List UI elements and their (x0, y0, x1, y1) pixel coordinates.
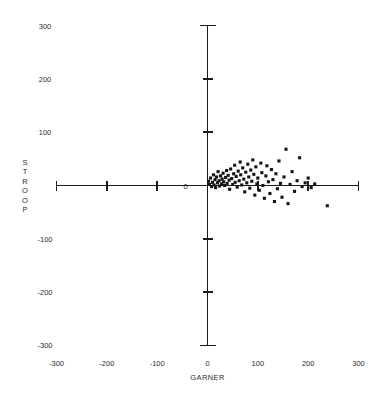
data-point-marker (254, 165, 257, 168)
data-point-marker (271, 178, 274, 181)
y-tick-label: -100 (37, 235, 52, 244)
data-point-marker (251, 158, 254, 161)
data-point-marker (209, 176, 212, 179)
y-axis-title-letter: O (22, 186, 28, 195)
data-point-marker (217, 170, 220, 173)
data-point-marker (236, 186, 239, 189)
y-axis-title-letter: S (22, 158, 27, 167)
data-point-marker (212, 183, 215, 186)
data-point-marker (293, 190, 296, 193)
data-point-marker (226, 182, 229, 185)
data-point-marker (229, 167, 232, 170)
y-axis-title-letter: O (22, 196, 28, 205)
data-point-marker (276, 187, 279, 190)
data-point-marker (280, 196, 283, 199)
data-point-marker (222, 180, 225, 183)
x-axis-title: GARNER (190, 373, 225, 382)
data-point-marker (239, 160, 242, 163)
data-point-marker (240, 183, 243, 186)
y-tick-label: -300 (37, 341, 52, 350)
data-point-marker (260, 171, 263, 174)
data-point-marker (249, 168, 252, 171)
data-point-marker (222, 172, 225, 175)
data-point-marker (267, 180, 270, 183)
data-point-marker (215, 175, 218, 178)
data-point-marker (237, 170, 240, 173)
data-point-marker (264, 174, 267, 177)
data-point-marker (270, 168, 273, 171)
data-point-marker (286, 202, 289, 205)
data-point-marker (298, 156, 301, 159)
data-point-marker (255, 182, 258, 185)
data-point-marker (243, 190, 246, 193)
data-point-marker (277, 159, 280, 162)
data-point-marker (218, 179, 221, 182)
y-tick-label: 0 (183, 182, 187, 191)
data-point-marker (301, 185, 304, 188)
data-point-marker (246, 163, 249, 166)
y-tick-label: 200 (39, 75, 52, 84)
data-point-marker (310, 186, 313, 189)
data-point-marker (282, 175, 285, 178)
data-point-marker (274, 172, 277, 175)
data-point-marker (232, 172, 235, 175)
data-point-marker (288, 183, 291, 186)
data-point-marker (207, 180, 210, 183)
data-point-marker (219, 174, 222, 177)
data-point-marker (326, 204, 329, 207)
data-point-marker (227, 174, 230, 177)
data-point-marker (313, 182, 316, 185)
y-axis-title-letter: P (22, 205, 27, 214)
data-point-marker (234, 181, 237, 184)
data-point-marker (230, 177, 233, 180)
data-point-marker (265, 164, 268, 167)
data-point-marker (273, 200, 276, 203)
data-point-marker (256, 176, 259, 179)
data-point-marker (235, 175, 238, 178)
data-point-marker (247, 175, 250, 178)
data-point-marker (228, 188, 231, 191)
scatter-plot-screen: -300-200-1000100200300-300-200-100010020… (0, 0, 387, 394)
x-tick-label: -300 (49, 359, 64, 368)
y-axis-title-letter: T (23, 167, 28, 176)
data-point-marker (211, 181, 214, 184)
data-point-marker (238, 179, 241, 182)
data-point-marker (233, 164, 236, 167)
x-tick-label: 300 (352, 359, 365, 368)
data-point-marker (245, 181, 248, 184)
y-axis-title-letter: R (22, 177, 28, 186)
data-point-marker (263, 197, 266, 200)
x-tick-label: 100 (252, 359, 265, 368)
x-tick-label: -200 (99, 359, 114, 368)
data-point-marker (242, 178, 245, 181)
data-point-marker (214, 186, 217, 189)
data-point-marker (261, 184, 264, 187)
y-tick-label: -200 (37, 288, 52, 297)
data-point-marker (307, 176, 310, 179)
y-tick-label: 100 (39, 128, 52, 137)
data-point-marker (304, 181, 307, 184)
data-point-marker (252, 173, 255, 176)
data-point-marker (213, 178, 216, 181)
data-point-marker (279, 182, 282, 185)
data-point-marker (250, 180, 253, 183)
x-tick-label: -100 (150, 359, 165, 368)
data-point-marker (258, 189, 261, 192)
data-point-marker (259, 162, 262, 165)
data-point-marker (291, 170, 294, 173)
data-point-marker (221, 178, 224, 181)
x-tick-label: 0 (205, 359, 209, 368)
data-point-marker (253, 194, 256, 197)
data-point-marker (248, 187, 251, 190)
y-tick-label: 300 (39, 22, 52, 31)
scatter-plot-figure: -300-200-1000100200300-300-200-100010020… (0, 0, 387, 394)
data-point-marker (239, 173, 242, 176)
data-point-marker (241, 166, 244, 169)
data-point-marker (244, 171, 247, 174)
data-point-marker (284, 148, 287, 151)
data-point-marker (268, 192, 271, 195)
x-tick-label: 200 (302, 359, 315, 368)
data-point-marker (212, 173, 215, 176)
data-point-marker (296, 179, 299, 182)
data-point-marker (225, 169, 228, 172)
